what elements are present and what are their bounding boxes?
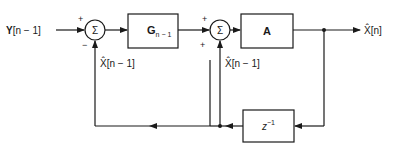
gain-g-label: Gn − 1	[147, 24, 171, 38]
block-diagram: Y[n − 1] Σ + − X̂[n − 1] Gn − 1 Σ + + X̂…	[0, 0, 402, 148]
delay-block	[243, 110, 294, 142]
sum1-plus-sign: +	[78, 14, 83, 24]
split-node-output	[322, 28, 326, 32]
gain-a-label: A	[263, 25, 271, 37]
sigma-symbol-2: Σ	[217, 25, 223, 36]
sum2-plus-sign-bottom: +	[200, 40, 205, 50]
sum1-minus-sign: −	[82, 40, 87, 50]
sum2-feedback-label: X̂[n − 1]	[225, 56, 260, 69]
input-label: Y[n − 1]	[6, 25, 41, 36]
sum1-feedback-label: X̂[n − 1]	[100, 56, 135, 69]
delay-label: z−1	[261, 119, 275, 132]
sum2-plus-sign-top: +	[202, 14, 207, 24]
split-node-feedback	[218, 124, 222, 128]
output-label: X̂[n]	[364, 23, 382, 36]
sigma-symbol-1: Σ	[92, 25, 98, 36]
